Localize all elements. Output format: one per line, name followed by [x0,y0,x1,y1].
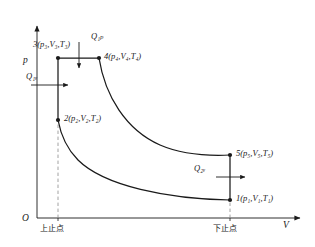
heat-label-q1v: Q₁ᵥ [26,72,37,81]
state-point-2 [56,118,60,122]
state-label-5: 5(p₅,V₅,T₅) [236,149,273,158]
curve-1-2-adiabatic-compression [58,120,230,200]
state-point-1 [228,198,232,202]
origin-label: O [22,214,29,224]
heat-label-q2v: Q₂ᵥ [194,164,205,173]
state-point-3 [56,56,60,60]
state-point-4 [97,56,101,60]
pv-diagram-figure: p V O 上止点 下止点 3(p₃,V₃,T₃) 4(p₄,V₄,T₄) 2(… [0,0,315,247]
state-point-markers [56,56,232,202]
tick-label-bottom-dead-center: 下止点 [213,225,237,233]
state-label-2: 2(p₂,V₂,T₂) [64,114,101,123]
curve-4-5-adiabatic-expansion [99,58,230,155]
x-axis-label: V [283,221,289,231]
state-label-4: 4(p₄,V₄,T₄) [104,52,141,61]
heat-arrows [31,42,245,177]
state-label-3: 3(p₃,V₃,T₃) [33,40,70,49]
y-axis-label: p [23,56,28,66]
diagram-canvas [0,0,315,247]
state-label-1: 1(p₁,V₁,T₁) [236,194,273,203]
heat-label-q1p: Q₁ₚ [91,32,104,41]
process-curves [58,58,230,200]
tick-label-top-dead-center: 上止点 [40,225,64,233]
state-point-5 [228,153,232,157]
